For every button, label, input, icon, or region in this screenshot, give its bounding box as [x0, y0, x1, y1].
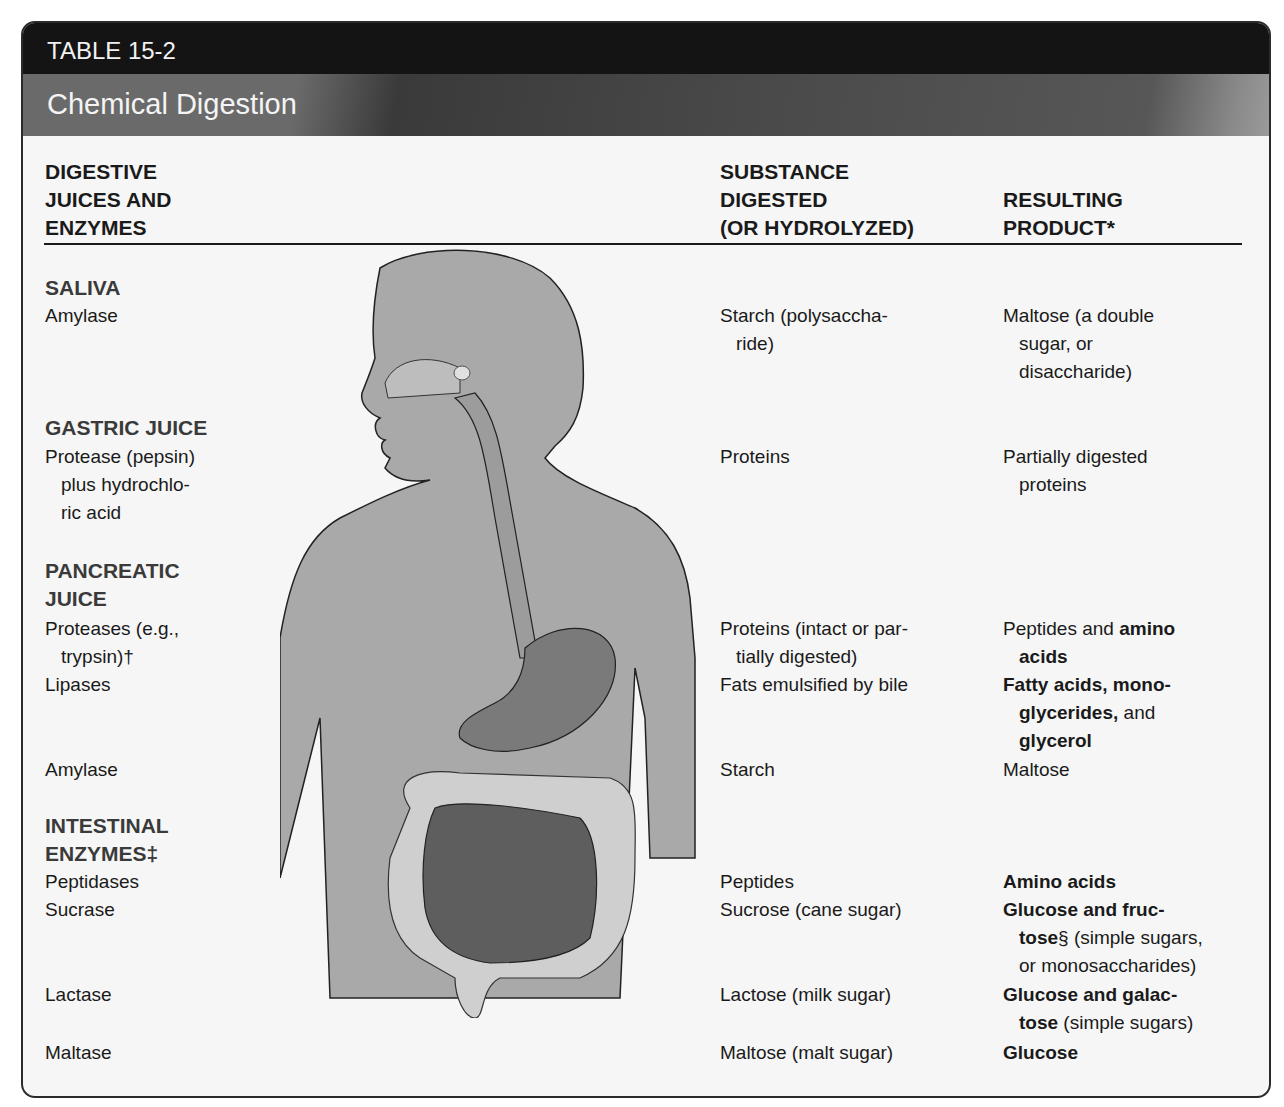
cell-line: Peptides and amino — [1003, 615, 1175, 643]
cell-line: trypsin)† — [45, 643, 179, 671]
cell-line: ride) — [720, 330, 888, 358]
cell-line: acids — [1003, 643, 1175, 671]
substance-cell: Maltose (malt sugar) — [720, 1039, 893, 1067]
product-cell: Amino acids — [1003, 868, 1116, 896]
salivary-gland — [454, 366, 470, 380]
header-line: ENZYMES — [45, 214, 171, 242]
header-line: PRODUCT* — [1003, 214, 1123, 242]
text: and — [1118, 702, 1155, 723]
enzyme-cell: Lactase — [45, 981, 112, 1009]
section-line: INTESTINAL — [45, 812, 169, 840]
cell-line: Glucose and galac- — [1003, 981, 1193, 1009]
cell-line: tose (simple sugars) — [1003, 1009, 1193, 1037]
section-line: ENZYMES‡ — [45, 840, 169, 868]
header-line: RESULTING — [1003, 186, 1123, 214]
substance-cell: Starch — [720, 756, 775, 784]
cell-line: Partially digested — [1003, 443, 1148, 471]
small-intestine — [423, 804, 597, 963]
product-cell: Glucose — [1003, 1039, 1078, 1067]
text: (simple sugars) — [1058, 1012, 1193, 1033]
cell-line: Maltose (a double — [1003, 302, 1154, 330]
section-intestinal-enzymes: INTESTINAL ENZYMES‡ — [45, 812, 169, 868]
section-gastric-juice: GASTRIC JUICE — [45, 414, 207, 442]
cell-line: plus hydrochlo- — [45, 471, 195, 499]
product-cell: Fatty acids, mono- glycerides, and glyce… — [1003, 671, 1171, 755]
cell-line: proteins — [1003, 471, 1148, 499]
product-cell: Glucose and galac- tose (simple sugars) — [1003, 981, 1193, 1037]
substance-cell: Peptides — [720, 868, 794, 896]
table-number: TABLE 15-2 — [47, 37, 176, 65]
header-line: (OR HYDROLYZED) — [720, 214, 914, 242]
column-header-enzymes: DIGESTIVE JUICES AND ENZYMES — [45, 158, 171, 242]
cell-line: Glucose and fruc- — [1003, 896, 1203, 924]
substance-cell: Lactose (milk sugar) — [720, 981, 891, 1009]
cell-line: glycerides, and — [1003, 699, 1171, 727]
header-line: JUICES AND — [45, 186, 171, 214]
enzyme-cell: Maltase — [45, 1039, 112, 1067]
product-cell: Peptides and amino acids — [1003, 615, 1175, 671]
text-bold: acids — [1019, 646, 1068, 667]
text-bold: Glucose — [1003, 1042, 1078, 1063]
column-header-product: RESULTING PRODUCT* — [1003, 186, 1123, 242]
enzyme-cell: Amylase — [45, 756, 118, 784]
section-pancreatic-juice: PANCREATIC JUICE — [45, 557, 180, 613]
header-line: DIGESTIVE — [45, 158, 171, 186]
table-title: Chemical Digestion — [47, 88, 297, 121]
text-bold: glycerol — [1019, 730, 1092, 751]
enzyme-cell: Protease (pepsin) plus hydrochlo- ric ac… — [45, 443, 195, 527]
table-title-bar: Chemical Digestion — [23, 74, 1269, 136]
cell-line: tially digested) — [720, 643, 908, 671]
product-cell: Partially digested proteins — [1003, 443, 1148, 499]
enzyme-cell: Sucrase — [45, 896, 115, 924]
substance-cell: Fats emulsified by bile — [720, 671, 908, 699]
text-bold: amino — [1119, 618, 1175, 639]
cell-line: ric acid — [45, 499, 195, 527]
digestive-system-illustration — [280, 218, 720, 1018]
cell-line: Proteases (e.g., — [45, 615, 179, 643]
cell-line: Proteins (intact or par- — [720, 615, 908, 643]
cell-line: sugar, or — [1003, 330, 1154, 358]
section-line: JUICE — [45, 585, 180, 613]
header-line: DIGESTED — [720, 186, 914, 214]
text: § (simple sugars, — [1058, 927, 1203, 948]
substance-cell: Proteins — [720, 443, 790, 471]
enzyme-cell: Peptidases — [45, 868, 139, 896]
substance-cell: Sucrose (cane sugar) — [720, 896, 902, 924]
text-bold: glycerides, — [1019, 702, 1118, 723]
header-line: SUBSTANCE — [720, 158, 914, 186]
section-saliva: SALIVA — [45, 274, 120, 302]
product-cell: Maltose (a double sugar, or disaccharide… — [1003, 302, 1154, 386]
cell-line: Protease (pepsin) — [45, 443, 195, 471]
text-bold: Glucose and galac- — [1003, 984, 1177, 1005]
header-divider — [44, 243, 1242, 245]
text-bold: Glucose and fruc- — [1003, 899, 1165, 920]
enzyme-cell: Amylase — [45, 302, 118, 330]
text-bold: tose — [1019, 927, 1058, 948]
text-bold: Fatty acids, mono- — [1003, 674, 1171, 695]
text-bold: tose — [1019, 1012, 1058, 1033]
product-cell: Maltose — [1003, 756, 1070, 784]
enzyme-cell: Proteases (e.g., trypsin)† — [45, 615, 179, 671]
cell-line: glycerol — [1003, 727, 1171, 755]
section-line: PANCREATIC — [45, 557, 180, 585]
text: Peptides and — [1003, 618, 1119, 639]
substance-cell: Proteins (intact or par- tially digested… — [720, 615, 908, 671]
table-label-bar: TABLE 15-2 — [23, 23, 1269, 74]
cell-line: Fatty acids, mono- — [1003, 671, 1171, 699]
column-header-substance: SUBSTANCE DIGESTED (OR HYDROLYZED) — [720, 158, 914, 242]
product-cell: Glucose and fruc- tose§ (simple sugars, … — [1003, 896, 1203, 980]
cell-line: or monosaccharides) — [1003, 952, 1203, 980]
cell-line: disaccharide) — [1003, 358, 1154, 386]
enzyme-cell: Lipases — [45, 671, 111, 699]
cell-line: Starch (polysaccha- — [720, 302, 888, 330]
text-bold: Amino acids — [1003, 871, 1116, 892]
cell-line: tose§ (simple sugars, — [1003, 924, 1203, 952]
substance-cell: Starch (polysaccha- ride) — [720, 302, 888, 358]
